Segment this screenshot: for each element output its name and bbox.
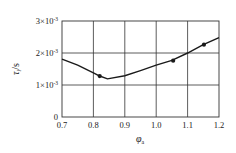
x-tick-labels: 0.70.80.91.01.11.2: [57, 120, 225, 130]
y-axis-label: τi/s: [10, 63, 22, 75]
x-tick-label: 0.8: [88, 120, 99, 130]
data-points: [98, 43, 206, 79]
y-tick-label: 0: [54, 112, 58, 122]
x-tick-label: 0.7: [57, 120, 68, 130]
data-point: [98, 74, 102, 78]
y-tick-labels: 01×10-32×10-33×10-3: [36, 16, 58, 123]
data-point: [171, 59, 175, 63]
series-line: [62, 38, 219, 79]
y-tick-label: 3×10-3: [36, 16, 58, 27]
data-point: [202, 43, 206, 47]
y-tick-label: 2×10-3: [36, 48, 58, 59]
y-tick-label: 1×10-3: [36, 80, 58, 91]
x-tick-label: 1.1: [182, 120, 193, 130]
x-axis-label: φa: [136, 133, 145, 145]
x-tick-label: 1.2: [214, 120, 225, 130]
x-tick-label: 0.9: [119, 120, 130, 130]
chart: 0.70.80.91.01.11.2 01×10-32×10-33×10-3 φ…: [0, 0, 236, 153]
x-tick-label: 1.0: [151, 120, 162, 130]
